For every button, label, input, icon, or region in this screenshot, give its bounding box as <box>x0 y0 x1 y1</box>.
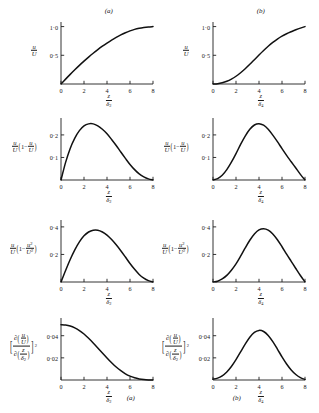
x-tick-label: 0 <box>59 87 62 94</box>
y-tick-label: 0·4 <box>191 223 210 230</box>
x-tick-label: 8 <box>151 285 154 292</box>
y-tick-label: 0·2 <box>191 251 210 258</box>
plot-svg-r4b <box>213 318 319 390</box>
data-curve-r4b <box>213 330 305 379</box>
panel-tag-a-top: (a) <box>105 7 113 15</box>
y-axis-label-row3: uU(1−u2U2) <box>10 241 37 255</box>
x-tick-label: 0 <box>211 383 214 390</box>
panel-tag-b-bottom: (b) <box>233 394 241 402</box>
y-tick-label: 1·0 <box>191 23 210 30</box>
plot-svg-r3b <box>213 220 319 292</box>
x-tick-label: 0 <box>211 285 214 292</box>
y-tick-label: 0·02 <box>39 354 58 361</box>
x-tick-label: 2 <box>234 87 237 94</box>
x-tick-label: 6 <box>128 183 131 190</box>
x-tick-label: 0 <box>59 285 62 292</box>
y-tick-label: 0·5 <box>39 52 58 59</box>
x-tick-label: 8 <box>303 87 306 94</box>
x-tick-label: 2 <box>234 285 237 292</box>
x-tick-label: 8 <box>303 383 306 390</box>
x-tick-label: 0 <box>59 383 62 390</box>
axis-lines <box>61 118 153 180</box>
y-tick-label: 1·0 <box>39 23 58 30</box>
plot-svg-r4a <box>61 318 167 390</box>
panel-tag-a-bottom: (a) <box>127 394 135 402</box>
y-axis-label-row4: [∂(uU)∂(zδ2)]2 <box>9 331 37 362</box>
y-tick-label: 0·1 <box>39 154 58 161</box>
x-tick-label: 6 <box>280 285 283 292</box>
y-axis-label-row2: uU(1−uU) <box>164 139 189 153</box>
x-tick-label: 8 <box>151 183 154 190</box>
x-tick-label: 6 <box>280 183 283 190</box>
x-tick-label: 2 <box>82 383 85 390</box>
y-axis-label-row1: uU <box>31 43 37 57</box>
x-tick-label: 8 <box>303 183 306 190</box>
x-tick-label: 0 <box>211 183 214 190</box>
x-axis-label-r3b: zδ4 <box>258 291 264 306</box>
data-curve-r1b <box>213 27 305 84</box>
plot-area-r2b <box>213 118 319 190</box>
y-axis-label-row4: [∂(uU)∂(zδ2)]2 <box>161 331 189 362</box>
y-tick-label: 0·2 <box>39 251 58 258</box>
y-tick-label: 0·04 <box>39 332 58 339</box>
x-tick-label: 2 <box>82 183 85 190</box>
plot-svg-r1b <box>213 22 319 94</box>
x-tick-label: 6 <box>280 383 283 390</box>
plot-area-r3b <box>213 220 319 292</box>
x-tick-label: 2 <box>234 383 237 390</box>
y-tick-label: 0·2 <box>39 131 58 138</box>
y-axis-label-row3: uU(1−u2U2) <box>162 241 189 255</box>
data-curve-r3b <box>213 229 305 282</box>
plot-area-r4a <box>61 318 167 390</box>
x-tick-label: 6 <box>128 285 131 292</box>
y-tick-label: 0·2 <box>191 131 210 138</box>
plot-area-r4b <box>213 318 319 390</box>
y-tick-label: 0·02 <box>191 354 210 361</box>
x-axis-label-r2a: zδ2 <box>106 189 112 204</box>
y-tick-label: 0·4 <box>39 223 58 230</box>
y-tick-label: 0·1 <box>191 154 210 161</box>
plot-svg-r3a <box>61 220 167 292</box>
data-curve-r2a <box>61 124 153 180</box>
plot-area-r1a <box>61 22 167 94</box>
x-tick-label: 2 <box>82 285 85 292</box>
plot-svg-r2b <box>213 118 319 190</box>
x-tick-label: 0 <box>211 87 214 94</box>
x-axis-label-r4a: zδ2 <box>106 389 112 404</box>
x-tick-label: 8 <box>151 87 154 94</box>
y-axis-label-row2: uU(1−uU) <box>12 139 37 153</box>
x-tick-label: 6 <box>128 87 131 94</box>
x-tick-label: 6 <box>280 87 283 94</box>
data-curve-r3a <box>61 230 153 282</box>
x-tick-label: 8 <box>151 383 154 390</box>
x-tick-label: 2 <box>82 87 85 94</box>
x-axis-label-r1a: zδ2 <box>106 93 112 108</box>
data-curve-r2b <box>213 124 305 180</box>
x-tick-label: 0 <box>59 183 62 190</box>
plot-svg-r2a <box>61 118 167 190</box>
x-axis-label-r3a: zδ2 <box>106 291 112 306</box>
figure-root: 024681·00·5uUzδ2024681·00·5uUzδ4024680·2… <box>0 0 319 413</box>
x-axis-label-r2b: zδ4 <box>258 189 264 204</box>
data-curve-r4a <box>61 325 153 380</box>
plot-area-r1b <box>213 22 319 94</box>
plot-area-r2a <box>61 118 167 190</box>
data-curve-r1a <box>61 27 153 84</box>
y-axis-label-row1: uU <box>183 43 189 57</box>
panel-tag-b-top: (b) <box>257 7 265 15</box>
x-axis-label-r1b: zδ4 <box>258 93 264 108</box>
y-tick-label: 0·04 <box>191 332 210 339</box>
x-tick-label: 2 <box>234 183 237 190</box>
plot-svg-r1a <box>61 22 167 94</box>
x-tick-label: 8 <box>303 285 306 292</box>
plot-area-r3a <box>61 220 167 292</box>
y-tick-label: 0·5 <box>191 52 210 59</box>
axis-lines <box>61 22 153 84</box>
x-axis-label-r4b: zδ4 <box>258 389 264 404</box>
x-tick-label: 6 <box>128 383 131 390</box>
